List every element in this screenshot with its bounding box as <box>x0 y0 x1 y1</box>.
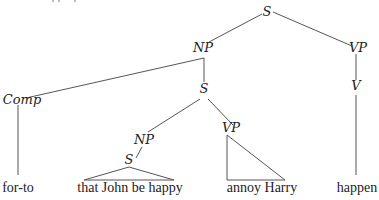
tree-nodes: S NP VP Comp S V NP VP S <box>3 4 368 167</box>
node-np-low: NP <box>133 132 154 147</box>
node-s-mid: S <box>200 81 209 96</box>
tree-leaves: for-to that John be happy annoy Harry ha… <box>2 180 377 195</box>
node-root-s: S <box>263 4 272 19</box>
leaf-that-john-be-happy: that John be happy <box>77 180 182 195</box>
triangle-s-low <box>84 167 174 180</box>
node-vp-top: VP <box>349 40 367 55</box>
leaf-happen: happen <box>337 180 377 195</box>
edge-np-comp <box>26 58 204 98</box>
node-comp: Comp <box>3 92 42 107</box>
node-np-top: NP <box>192 40 213 55</box>
edge-s-np <box>209 14 262 42</box>
edge-s-np-low <box>148 99 200 132</box>
edge-s-vp <box>273 12 352 46</box>
triangle-vp-low <box>227 135 285 180</box>
leaf-annoy-harry: annoy Harry <box>227 180 297 195</box>
syntax-tree-diagram: S NP VP Comp S V NP VP S for-to that Joh… <box>0 0 379 200</box>
tree-edges <box>18 12 356 180</box>
leaf-for-to: for-to <box>2 180 34 195</box>
node-s-low: S <box>125 152 134 167</box>
node-vp-low: VP <box>222 120 240 135</box>
node-v: V <box>351 78 362 93</box>
edge-np-low-s <box>136 147 142 158</box>
